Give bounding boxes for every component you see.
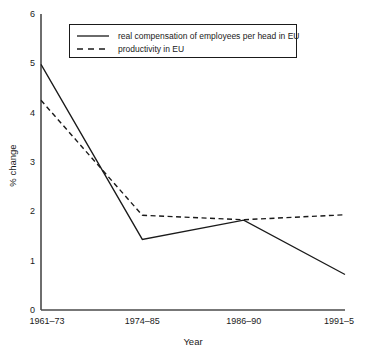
y-tick-label: 4 bbox=[19, 108, 35, 118]
series-layer bbox=[41, 64, 345, 274]
y-tick-label: 0 bbox=[19, 305, 35, 315]
legend-label-real-compensation: real compensation of employees per head … bbox=[118, 31, 299, 41]
legend-item-productivity: productivity in EU bbox=[76, 42, 184, 55]
x-tick-label: 1991–5 bbox=[307, 316, 366, 326]
x-axis-title: Year bbox=[41, 336, 345, 347]
line-chart: 0123456 1961–731974–851986–901991–5 % ch… bbox=[0, 0, 366, 360]
legend-label-productivity: productivity in EU bbox=[118, 44, 184, 54]
y-tick-label: 6 bbox=[19, 9, 35, 19]
chart-legend: real compensation of employees per head … bbox=[69, 24, 297, 58]
legend-item-real-compensation: real compensation of employees per head … bbox=[76, 29, 299, 42]
x-tick-label: 1986–90 bbox=[212, 316, 276, 326]
y-tick-label: 2 bbox=[19, 206, 35, 216]
y-axis-title: % change bbox=[7, 134, 18, 198]
y-tick-label: 1 bbox=[19, 256, 35, 266]
y-tick-label: 5 bbox=[19, 58, 35, 68]
series-line-real-compensation bbox=[41, 64, 345, 274]
y-tick-label: 3 bbox=[19, 157, 35, 167]
x-tick-label: 1961–73 bbox=[15, 316, 79, 326]
legend-swatch-solid-line bbox=[76, 31, 110, 41]
series-line-productivity bbox=[41, 100, 345, 219]
legend-swatch-dashed-line bbox=[76, 44, 110, 54]
x-tick-label: 1974–85 bbox=[110, 316, 174, 326]
